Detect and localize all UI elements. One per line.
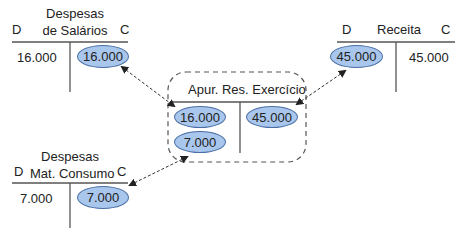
debit-label: D <box>342 22 351 37</box>
credit-value-ellipse: 7.000 <box>77 186 129 209</box>
debit-value-ellipse: 45.000 <box>330 45 383 68</box>
title-line: Mat. Consumo <box>30 165 110 182</box>
credit-label: C <box>120 22 129 37</box>
debit-value: 16.000 <box>17 50 57 65</box>
title-line: Despesas <box>30 148 110 165</box>
debit-value-ellipse: 7.000 <box>174 131 226 153</box>
credit-value-ellipse: 16.000 <box>77 45 129 68</box>
title-line: Despesas <box>40 5 110 22</box>
debit-label: D <box>14 164 23 179</box>
account-title-receita: Receita <box>377 22 421 37</box>
account-title-apuracao: Apur. Res. Exercício <box>188 82 306 97</box>
credit-value: 45.000 <box>409 50 449 65</box>
credit-value-ellipse: 45.000 <box>246 106 298 128</box>
debit-label: D <box>12 22 21 37</box>
account-title-consumo: Despesas Mat. Consumo <box>30 148 110 182</box>
debit-value: 7.000 <box>20 191 53 206</box>
credit-label: C <box>117 164 126 179</box>
debit-value-ellipse: 16.000 <box>174 106 226 128</box>
title-line: de Salários <box>40 22 110 39</box>
credit-label: C <box>441 22 450 37</box>
account-title-salarios: Despesas de Salários <box>40 5 110 39</box>
